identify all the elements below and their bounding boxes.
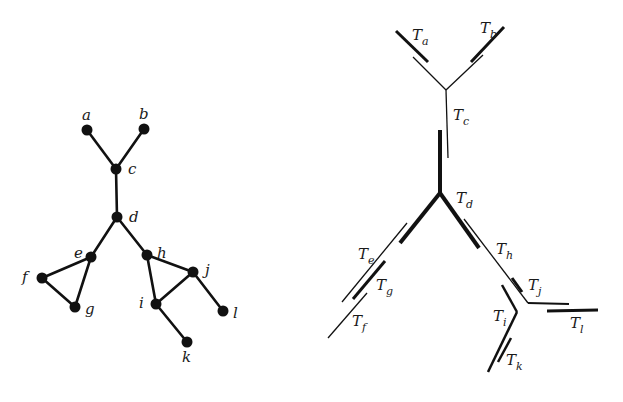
node-label-a: a (82, 106, 91, 124)
edge-e-f (42, 257, 91, 278)
tree-label-Tf: Tf (352, 312, 368, 334)
segment-ta-thin (413, 57, 446, 90)
tree-label-Th: Th (496, 240, 513, 262)
segment-tj-horizontal (528, 303, 569, 304)
node-j (188, 267, 199, 278)
segment-tb-thin (446, 55, 483, 90)
node-h (142, 250, 153, 261)
node-f (37, 273, 48, 284)
node-d (112, 212, 123, 223)
node-b (139, 124, 150, 135)
segment-ti-upper (502, 285, 517, 312)
tree-label-Ta: Ta (412, 26, 429, 48)
node-label-e: e (74, 244, 83, 262)
tree-decomposition-labels: TaTbTcTdTeTgTfThTjTiTlTk (352, 19, 584, 373)
node-label-l: l (233, 304, 238, 322)
tree-label-Tj: Tj (528, 276, 542, 298)
edge-h-j (147, 255, 193, 272)
node-label-k: k (182, 348, 191, 366)
node-c (111, 164, 122, 175)
edge-i-k (156, 304, 187, 342)
tree-label-Td: Td (456, 189, 473, 211)
node-label-i: i (139, 294, 144, 312)
node-label-d: d (129, 208, 139, 226)
node-l (218, 306, 229, 317)
node-e (86, 252, 97, 263)
segment-th-thin (464, 219, 528, 303)
segment-tc-thin (446, 90, 448, 158)
tree-label-Tc: Tc (453, 106, 469, 128)
tree-label-Te: Te (358, 245, 375, 267)
edge-i-j (156, 272, 193, 304)
edge-d-e (91, 217, 117, 257)
edge-h-i (147, 255, 156, 304)
tree-label-Tg: Tg (376, 276, 393, 298)
edge-f-g (42, 278, 75, 307)
node-label-b: b (139, 105, 149, 123)
node-a (82, 125, 93, 136)
segment-td-left (400, 193, 440, 243)
node-label-j: j (202, 261, 210, 279)
tree-label-Tk: Tk (506, 351, 523, 373)
segment-tl-thick (547, 310, 598, 311)
node-g (70, 302, 81, 313)
node-k (182, 337, 193, 348)
graph-node-labels: abcdefghjilk (21, 105, 238, 366)
node-label-g: g (85, 300, 95, 318)
tree-label-Tb: Tb (480, 19, 497, 41)
figure-canvas: abcdefghjilk TaTbTcTdTeTgTfThTjTiTlTk (0, 0, 623, 402)
node-label-h: h (157, 244, 167, 262)
edge-a-c (87, 130, 116, 169)
node-label-c: c (128, 160, 137, 178)
edge-c-d (116, 169, 117, 217)
tree-label-Tl: Tl (570, 314, 584, 336)
node-label-f: f (21, 268, 30, 286)
node-i (151, 299, 162, 310)
tree-label-Ti: Ti (493, 307, 507, 329)
